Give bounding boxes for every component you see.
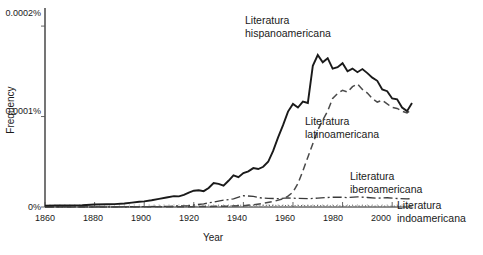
x-tick-label-1960: 1960	[275, 213, 295, 223]
x-tick-label-1940: 1940	[227, 213, 247, 223]
x-tick-label-2000: 2000	[371, 213, 391, 223]
x-tick-label-1880: 1880	[83, 213, 103, 223]
series-label-latinoamericana-line2: latinoamericana	[305, 128, 379, 140]
x-tick-label-1860: 1860	[35, 213, 55, 223]
x-tick-label-1920: 1920	[179, 213, 199, 223]
series-label-latinoamericana-line1: Literatura	[305, 115, 350, 127]
series-label-hispanoamericana-line1: Literatura	[245, 14, 290, 26]
x-tick-label-1980: 1980	[323, 213, 343, 223]
x-axis-title: Year	[203, 232, 224, 243]
y-axis-title: Frequency	[5, 86, 16, 133]
y-tick-label-2: 0.0002%	[5, 8, 41, 18]
series-label-indoamericana-line2: indoamericana	[397, 212, 466, 224]
ngram-chart-figure: 0% 0.0001% 0.0002% Frequency 1860 1880 1…	[0, 0, 483, 255]
chart-canvas: 0% 0.0001% 0.0002% Frequency 1860 1880 1…	[0, 0, 483, 255]
series-label-indoamericana-line1: Literatura	[397, 199, 442, 211]
series-label-iberoamericana-line1: Literatura	[350, 170, 395, 182]
series-label-iberoamericana-line2: iberoamericana	[350, 183, 423, 195]
x-tick-label-1900: 1900	[131, 213, 151, 223]
y-tick-label-0: 0%	[28, 202, 41, 212]
series-label-hispanoamericana-line2: hispanoamericana	[245, 27, 331, 39]
